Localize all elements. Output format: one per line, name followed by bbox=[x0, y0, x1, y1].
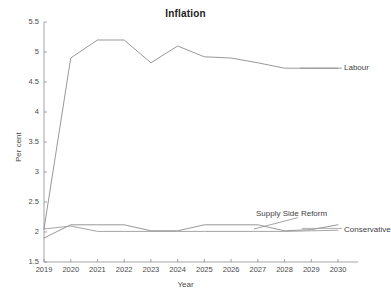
series-label-labour: Labour bbox=[344, 63, 369, 72]
x-tick-label: 2028 bbox=[270, 266, 300, 274]
y-tick-label: 4 bbox=[13, 108, 39, 116]
y-tick-label: 5 bbox=[13, 48, 39, 56]
x-tick-label: 2019 bbox=[29, 266, 59, 274]
x-tick-label: 2020 bbox=[56, 266, 86, 274]
x-tick-label: 2021 bbox=[82, 266, 112, 274]
x-axis-label: Year bbox=[0, 280, 371, 289]
y-tick-label: 2 bbox=[13, 228, 39, 236]
x-tick-label: 2030 bbox=[323, 266, 353, 274]
y-tick-label: 2.5 bbox=[13, 198, 39, 206]
y-tick-label: 3 bbox=[13, 168, 39, 176]
x-tick-label: 2023 bbox=[136, 266, 166, 274]
x-tick-label: 2026 bbox=[216, 266, 246, 274]
y-tick-label: 4.5 bbox=[13, 78, 39, 86]
x-tick-label: 2027 bbox=[243, 266, 273, 274]
x-tick-label: 2029 bbox=[296, 266, 326, 274]
x-tick-label: 2022 bbox=[109, 266, 139, 274]
leader-line-supply-side-reform bbox=[254, 218, 298, 229]
series-line-labour bbox=[44, 40, 338, 229]
x-tick-label: 2024 bbox=[163, 266, 193, 274]
series-label-conservative: Conservative bbox=[344, 225, 391, 234]
leader-lines-group bbox=[254, 68, 342, 229]
y-axis-label: Per cent bbox=[14, 132, 23, 162]
series-label-supply-side-reform: Supply Side Reform bbox=[256, 209, 327, 218]
y-tick-label: 5.5 bbox=[13, 18, 39, 26]
x-tick-label: 2025 bbox=[189, 266, 219, 274]
